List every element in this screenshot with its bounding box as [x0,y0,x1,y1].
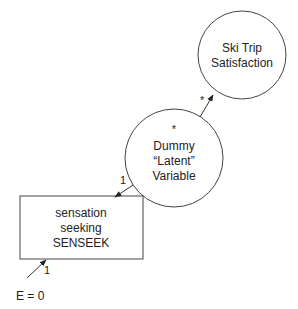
senseek-node: sensation seeking SENSEEK [20,196,143,259]
edge-error-to-senseek-label: 1 [44,264,50,276]
dummy-line-3: Variable [152,169,195,183]
ski-trip-line-2: Satisfaction [211,56,273,70]
error-term-label: E = 0 [16,289,45,303]
senseek-line-2: seeking [60,221,101,235]
ski-trip-line-1: Ski Trip [222,41,262,55]
edge-error-to-senseek: 1 [27,260,50,278]
dummy-marker: * [172,123,177,135]
dummy-line-1: Dummy [153,139,194,153]
path-diagram: Ski Trip Satisfaction * Dummy “Latent” V… [0,0,298,309]
senseek-line-3: SENSEEK [53,236,110,250]
edge-dummy-to-senseek-label: 1 [120,174,126,186]
dummy-line-2: “Latent” [153,154,194,168]
edge-dummy-to-ski: * [200,94,213,117]
senseek-line-1: sensation [55,206,106,220]
dummy-latent-node: * Dummy “Latent” Variable [125,109,223,207]
ski-trip-satisfaction-node: Ski Trip Satisfaction [198,11,286,99]
edge-dummy-to-ski-label: * [200,94,205,106]
